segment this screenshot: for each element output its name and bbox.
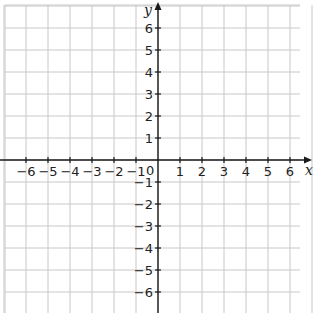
y-tick-label: 5 (145, 43, 153, 58)
y-tick-label: 1 (145, 131, 153, 146)
x-tick-label: 5 (264, 164, 272, 179)
y-tick-label: 4 (145, 65, 153, 80)
y-tick-label: −3 (134, 219, 153, 234)
coordinate-plane: −6−5−4−3−2−1123456654321−1−2−3−4−5−6 x y… (0, 0, 313, 313)
y-tick-label: −5 (134, 263, 153, 278)
x-tick-label: 6 (286, 164, 294, 179)
y-tick-label: 6 (145, 21, 153, 36)
x-axis-label: x (305, 162, 313, 178)
y-tick-label: −2 (134, 197, 153, 212)
y-tick-label: −6 (134, 285, 153, 300)
x-tick-label: −3 (82, 164, 101, 179)
x-tick-label: 3 (220, 164, 228, 179)
x-tick-label: −6 (16, 164, 35, 179)
axes (0, 2, 312, 313)
x-tick-label: 2 (198, 164, 206, 179)
x-tick-label: 4 (242, 164, 250, 179)
x-tick-label: −4 (60, 164, 79, 179)
y-tick-label: −4 (134, 241, 153, 256)
origin-label: 0 (146, 163, 154, 178)
y-axis-label: y (143, 2, 153, 18)
y-tick-label: 3 (145, 87, 153, 102)
x-tick-label: −2 (104, 164, 123, 179)
x-tick-label: −5 (38, 164, 57, 179)
x-tick-label: 1 (176, 164, 184, 179)
y-tick-label: 2 (145, 109, 153, 124)
